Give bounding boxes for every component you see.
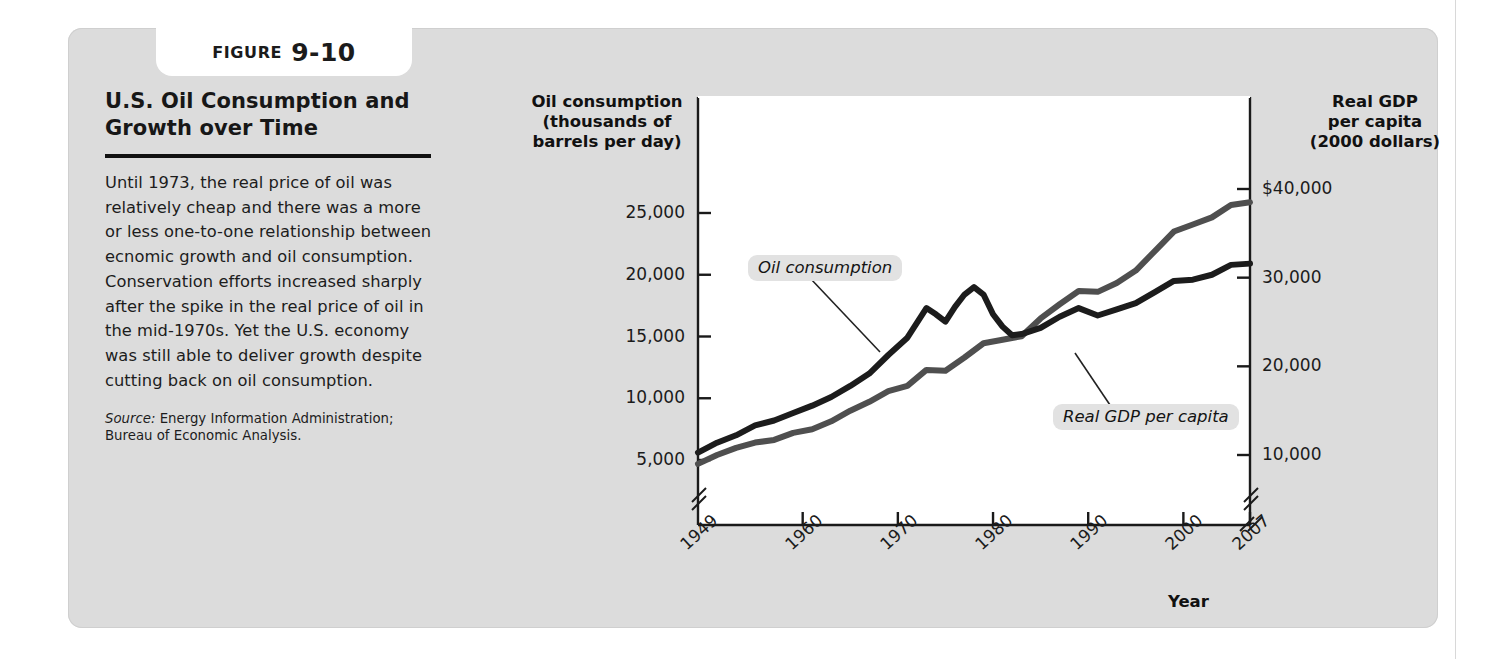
figure-number-tab: Figure 9-10 (156, 28, 412, 76)
figure-label: Figure (212, 43, 282, 62)
figure-text-column: U.S. Oil Consumption and Growth over Tim… (105, 88, 435, 458)
source-label: Source: (105, 411, 155, 426)
figure-source: Source: Energy Information Administratio… (105, 410, 435, 445)
figure-title: U.S. Oil Consumption and Growth over Tim… (105, 88, 435, 142)
page-edge-rule (1455, 0, 1456, 659)
figure-number: 9-10 (291, 38, 356, 67)
figure-description: Until 1973, the real price of oil was re… (105, 171, 435, 394)
title-divider (105, 154, 431, 158)
